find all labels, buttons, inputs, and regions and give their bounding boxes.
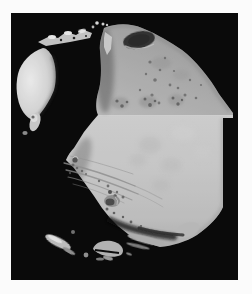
phobos-image (11, 13, 238, 280)
scanned-page (0, 0, 252, 294)
photo-frame (11, 13, 238, 280)
